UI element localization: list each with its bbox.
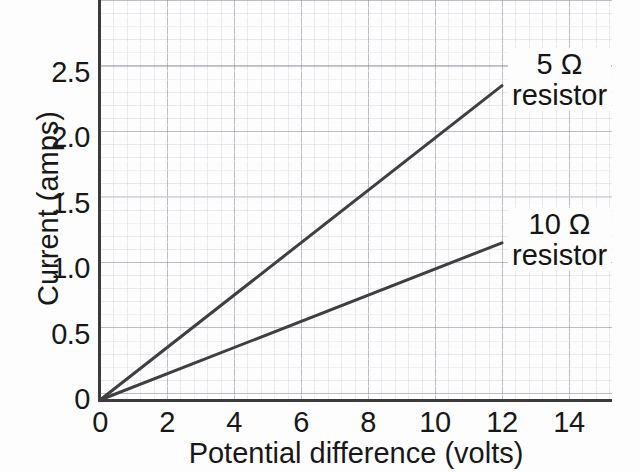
x-axis-title: Potential difference (volts) — [100, 437, 612, 470]
annotation-10-ohm-word: resistor — [512, 240, 607, 271]
x-tick-label-6: 6 — [293, 406, 309, 439]
annotation-10-ohm-resistor: 10 Ω resistor — [508, 208, 611, 271]
x-tick-label-8: 8 — [360, 406, 376, 439]
x-tick-label-2: 2 — [159, 406, 175, 439]
x-tick-label-0: 0 — [92, 406, 108, 439]
x-tick-label-10: 10 — [419, 406, 450, 439]
x-tick-label-12: 12 — [486, 406, 517, 439]
annotation-5-ohm-word: resistor — [512, 80, 607, 111]
y-axis-title: Current (amps) — [32, 69, 65, 349]
x-tick-label-4: 4 — [226, 406, 242, 439]
annotation-5-ohm-resistor: 5 Ω resistor — [508, 48, 611, 111]
x-tick-label-14: 14 — [553, 406, 584, 439]
annotation-5-ohm-value: 5 Ω — [537, 48, 583, 80]
annotation-10-ohm-value: 10 Ω — [529, 208, 591, 240]
chart-figure: 2.5 2.0 1.5 1.0 0.5 0 0 2 4 6 8 10 12 14… — [0, 0, 640, 472]
